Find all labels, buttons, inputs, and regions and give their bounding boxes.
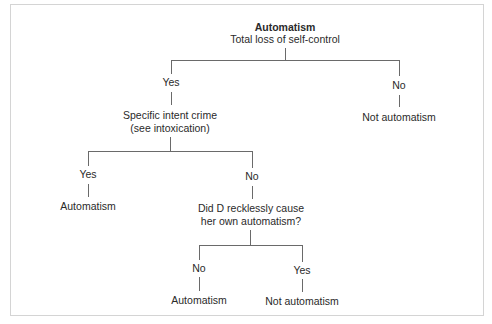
q3-stem (250, 230, 251, 245)
q3-yes-label: Yes (293, 264, 310, 277)
q3-question-line1: Did D recklessly cause (198, 202, 304, 215)
q3-no-to-outcome-line (199, 277, 200, 291)
q3-no-label: No (192, 262, 205, 275)
root-yes-drop (171, 60, 172, 74)
q3-yes-outcome: Not automatism (265, 295, 339, 308)
q2-yes-drop (88, 151, 89, 166)
q2-yes-label: Yes (79, 168, 96, 181)
q2-no-to-q3-line (252, 186, 253, 199)
no-to-outcome-line (399, 95, 400, 107)
q3-yes-to-outcome-line (302, 279, 303, 292)
q2-bar (88, 151, 253, 152)
root-no-outcome: Not automatism (362, 111, 436, 124)
q2-stem (170, 137, 171, 151)
q3-no-outcome: Automatism (171, 294, 226, 307)
q3-yes-drop (302, 245, 303, 262)
q2-yes-to-outcome-line (88, 184, 89, 197)
q2-question-line2: (see intoxication) (130, 122, 209, 135)
root-question: Total loss of self-control (230, 33, 340, 46)
diagram-frame (10, 4, 484, 316)
q2-no-drop (252, 151, 253, 168)
q2-question-line1: Specific intent crime (123, 109, 217, 122)
q3-no-drop (199, 245, 200, 260)
q2-no-label: No (245, 170, 258, 183)
q3-bar (199, 245, 303, 246)
root-yes-label: Yes (162, 76, 179, 89)
root-no-drop (399, 60, 400, 76)
q2-yes-outcome: Automatism (60, 200, 115, 213)
q3-question-line2: her own automatism? (201, 215, 301, 228)
root-stem (285, 48, 286, 60)
root-no-label: No (392, 79, 405, 92)
yes-to-q2-line (171, 92, 172, 105)
root-bar (171, 60, 400, 61)
